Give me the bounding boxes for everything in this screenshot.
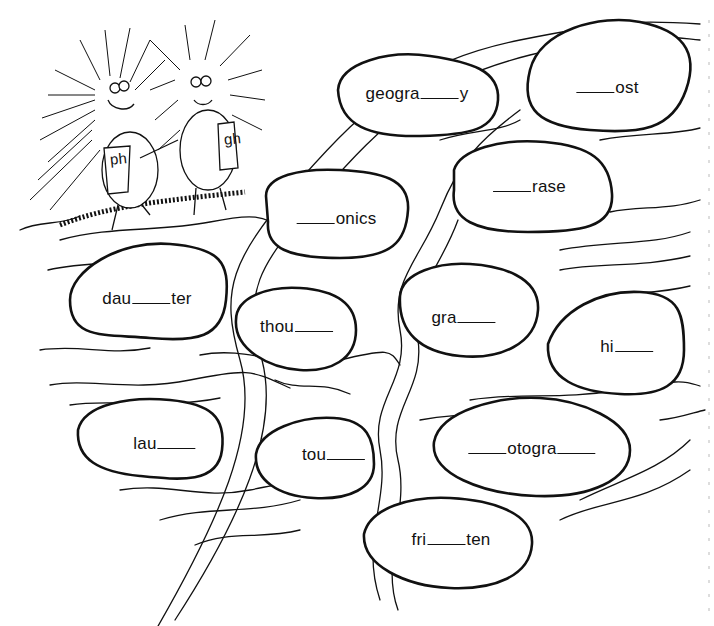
blank-line[interactable] — [158, 447, 196, 449]
word-fragment: geogra — [366, 84, 420, 103]
word-fragment: dau — [102, 289, 131, 308]
word-fragment: tou — [302, 445, 326, 464]
blank-line[interactable] — [427, 543, 465, 545]
word-blank-photograph[interactable]: otogra — [467, 439, 596, 459]
porcupine-gh-illustration — [150, 20, 265, 215]
word-blank-tough[interactable]: tou — [302, 445, 366, 465]
word-fragment: rase — [532, 177, 566, 196]
blank-line[interactable] — [327, 458, 365, 460]
blank-line[interactable] — [615, 350, 653, 352]
word-fragment: gra — [431, 308, 456, 327]
word-blank-high[interactable]: hi — [600, 337, 654, 357]
page-edge — [708, 20, 710, 620]
word-fragment: lau — [133, 434, 156, 453]
word-fragment: ten — [466, 530, 490, 549]
word-fragment: onics — [336, 209, 377, 228]
word-blank-ghost[interactable]: ost — [575, 78, 638, 98]
word-fragment: ter — [171, 289, 191, 308]
blank-line[interactable] — [468, 452, 506, 454]
vest-label-gh: gh — [223, 129, 241, 148]
stone-ghost — [528, 20, 691, 131]
word-fragment: hi — [600, 337, 614, 356]
vest-label-ph: ph — [109, 149, 127, 168]
word-blank-geography[interactable]: geogray — [366, 84, 469, 104]
porcupine-ph-illustration — [30, 28, 178, 230]
blank-line[interactable] — [458, 321, 496, 323]
word-blank-phrase[interactable]: rase — [492, 177, 566, 197]
word-fragment: ost — [615, 78, 638, 97]
word-fragment: otogra — [507, 439, 556, 458]
blank-line[interactable] — [297, 222, 335, 224]
blank-line[interactable] — [295, 330, 333, 332]
blank-line[interactable] — [421, 97, 459, 99]
blank-line[interactable] — [558, 452, 596, 454]
word-blank-thought[interactable]: thou — [260, 317, 334, 337]
blank-line[interactable] — [132, 302, 170, 304]
word-blank-graph[interactable]: gra — [431, 308, 496, 328]
word-blank-laugh[interactable]: lau — [133, 434, 196, 454]
word-blank-phonics[interactable]: onics — [296, 209, 377, 229]
worksheet-page: ph gh geograyostonicsrasedauterthougrahi… — [0, 0, 714, 626]
word-blank-daughter[interactable]: dauter — [102, 289, 191, 309]
word-fragment: fri — [412, 530, 427, 549]
word-fragment: thou — [260, 317, 294, 336]
blank-line[interactable] — [493, 190, 531, 192]
blank-line[interactable] — [576, 91, 614, 93]
word-blank-frighten[interactable]: friten — [412, 530, 491, 550]
word-fragment: y — [460, 84, 469, 103]
